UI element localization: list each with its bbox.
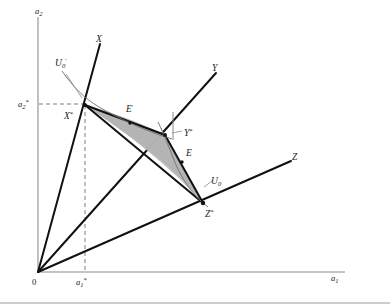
axes-group <box>38 17 345 272</box>
point-dot-ystar <box>163 133 167 137</box>
curve-label-U0: U0 <box>211 176 222 187</box>
indifference-curve-U0-prime <box>62 71 172 139</box>
point-label-xstar: X* <box>63 110 74 121</box>
ray-label-X: X <box>95 34 103 44</box>
ray-Z <box>38 161 291 272</box>
ray-label-Z: Z <box>292 152 298 162</box>
leader-U0-prime <box>66 74 82 98</box>
point-label-ystar: Y* <box>184 127 193 138</box>
x-axis-label: a1 <box>331 273 339 284</box>
point-dot-e-prime <box>128 121 131 124</box>
point-dot-e <box>180 160 183 163</box>
y-tick-label: a2* <box>18 98 30 110</box>
point-label-e: E <box>185 148 192 158</box>
diagram-canvas: a2 a1 0 a1* a2* X Y Z U0' U0 X* Y* Z* E'… <box>0 0 390 308</box>
point-dot-zstar <box>201 201 205 205</box>
labels-group: a2 a1 0 a1* a2* X Y Z U0' U0 X* Y* Z* E'… <box>18 6 339 288</box>
ray-label-Y: Y <box>212 63 219 73</box>
curve-label-U0-prime: U0' <box>55 57 66 69</box>
point-label-e-prime: E' <box>125 103 133 114</box>
figure-root: a2 a1 0 a1* a2* X Y Z U0' U0 X* Y* Z* E'… <box>0 0 390 308</box>
y-axis-label: a2 <box>35 6 43 17</box>
point-dot-xstar <box>83 103 87 107</box>
point-label-zstar: Z* <box>205 208 214 219</box>
x-tick-label: a1* <box>76 276 88 288</box>
origin-label: 0 <box>32 277 36 287</box>
